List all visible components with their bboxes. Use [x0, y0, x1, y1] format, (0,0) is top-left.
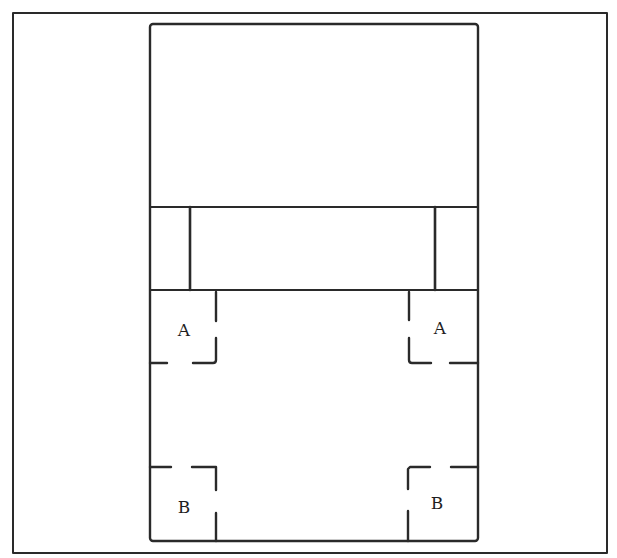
outer-frame	[13, 13, 607, 553]
label-a-top-right: A	[434, 320, 446, 337]
label-b-bottom-left: B	[178, 499, 191, 516]
diagram-canvas	[0, 0, 617, 558]
label-b-bottom-right: B	[431, 495, 444, 512]
label-a-top-left: A	[178, 322, 190, 339]
main-rectangle	[150, 24, 478, 541]
